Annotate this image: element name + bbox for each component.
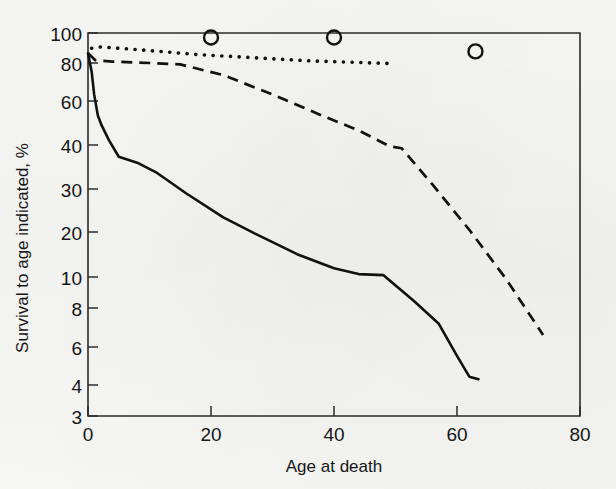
x-tick-marks bbox=[88, 406, 580, 416]
x-tick-label-60: 60 bbox=[446, 424, 467, 445]
x-axis-title: Age at death bbox=[286, 457, 382, 476]
series-solid-curve bbox=[88, 53, 479, 379]
series-dashed-curve bbox=[88, 53, 543, 335]
survival-curve-chart: 100 80 60 40 30 20 10 8 6 4 3 0 20 40 60 bbox=[0, 0, 616, 489]
x-tick-label-0: 0 bbox=[83, 424, 94, 445]
series-group bbox=[88, 47, 543, 379]
y-tick-label-6: 6 bbox=[71, 338, 82, 359]
y-tick-label-80: 80 bbox=[61, 54, 82, 75]
plot-frame bbox=[88, 33, 580, 416]
y-axis: 100 80 60 40 30 20 10 8 6 4 3 bbox=[50, 24, 98, 428]
y-axis-title: Survival to age indicated, % bbox=[13, 143, 32, 353]
y-tick-label-10: 10 bbox=[61, 268, 82, 289]
y-tick-label-4: 4 bbox=[71, 376, 82, 397]
open-circle-markers bbox=[204, 30, 482, 58]
x-tick-label-20: 20 bbox=[200, 424, 221, 445]
open-circle-63 bbox=[468, 44, 482, 58]
x-tick-label-80: 80 bbox=[569, 424, 590, 445]
x-tick-label-40: 40 bbox=[323, 424, 344, 445]
series-dotted-curve bbox=[92, 47, 396, 64]
y-tick-label-30: 30 bbox=[61, 180, 82, 201]
y-tick-label-100: 100 bbox=[50, 24, 82, 45]
x-axis: 0 20 40 60 80 bbox=[83, 406, 591, 445]
y-tick-label-8: 8 bbox=[71, 299, 82, 320]
y-tick-label-3: 3 bbox=[71, 407, 82, 428]
y-tick-label-60: 60 bbox=[61, 92, 82, 113]
y-tick-label-40: 40 bbox=[61, 136, 82, 157]
chart-page: 100 80 60 40 30 20 10 8 6 4 3 0 20 40 60 bbox=[0, 0, 616, 489]
y-tick-label-20: 20 bbox=[61, 223, 82, 244]
